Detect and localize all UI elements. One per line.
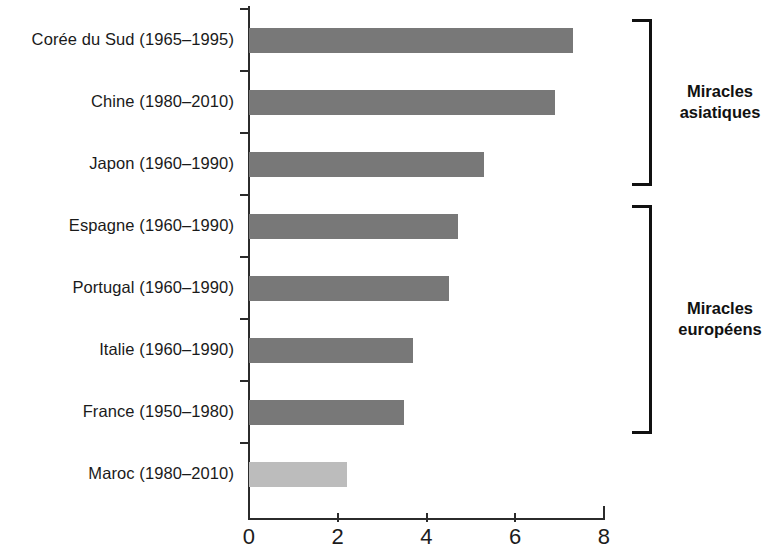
x-axis-tick-label: 2 [308,524,368,550]
category-label: Maroc (1980–2010) [0,464,234,483]
group-label-line2: européens [664,319,776,340]
group-label: Miraclesasiatiques [664,81,776,123]
bar [249,28,573,53]
y-axis-tick [240,442,249,444]
group-label: Miracleseuropéens [664,298,776,340]
bar [249,400,404,425]
group-label-line1: Miracles [664,298,776,319]
x-axis-tick-label: 8 [574,524,634,550]
x-axis-tick-label: 4 [397,524,457,550]
bar [249,462,347,487]
group-bracket [632,205,652,434]
bar [249,276,449,301]
y-axis-tick [240,256,249,258]
category-label: France (1950–1980) [0,402,234,421]
y-axis-tick [240,70,249,72]
x-axis-tick-label: 0 [219,524,279,550]
y-axis-tick [240,132,249,134]
group-label-line2: asiatiques [664,102,776,123]
category-label: Espagne (1960–1990) [0,216,234,235]
bar-chart-figure: Corée du Sud (1965–1995)Chine (1980–2010… [0,0,776,560]
category-label: Japon (1960–1990) [0,154,234,173]
x-axis-tick [426,513,428,522]
category-label: Chine (1980–2010) [0,92,234,111]
bar [249,152,484,177]
y-axis-tick [240,8,249,10]
category-label: Portugal (1960–1990) [0,278,234,297]
y-axis-tick [240,318,249,320]
bar [249,214,458,239]
x-axis-tick-label: 6 [485,524,545,550]
plot-area: Corée du Sud (1965–1995)Chine (1980–2010… [0,0,776,560]
y-axis-tick [240,380,249,382]
y-axis-tick [240,194,249,196]
bar [249,90,555,115]
x-axis-tick [248,506,250,520]
category-label: Italie (1960–1990) [0,340,234,359]
x-axis-tick [603,506,605,520]
category-label: Corée du Sud (1965–1995) [0,30,234,49]
x-axis-tick [514,513,516,522]
group-bracket [632,19,652,186]
group-label-line1: Miracles [664,81,776,102]
x-axis-tick [337,513,339,522]
bar [249,338,413,363]
